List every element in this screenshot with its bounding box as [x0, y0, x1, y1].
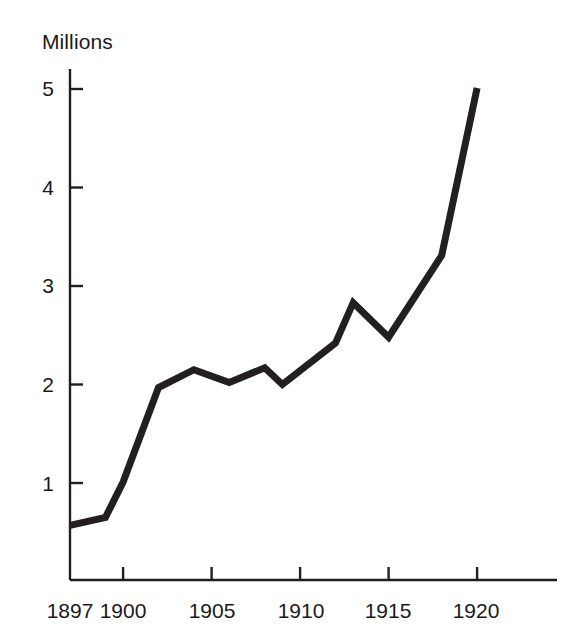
y-axis [70, 69, 83, 580]
data-series-group [70, 88, 477, 525]
chart-container: Millions 5 4 3 2 1 1897 1900 1905 1910 1… [0, 0, 588, 644]
plot-area [0, 0, 588, 644]
line-series-millions [70, 88, 477, 525]
x-axis-ticks [123, 567, 477, 580]
y-axis-ticks [70, 89, 83, 483]
x-axis [70, 567, 557, 580]
